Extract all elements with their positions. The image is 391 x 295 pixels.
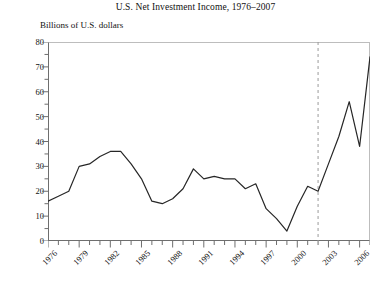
data-line bbox=[48, 57, 370, 231]
y-axis-unit-label: Billions of U.S. dollars bbox=[40, 20, 123, 30]
x-tick-label: 1988 bbox=[155, 248, 183, 276]
x-tick-label: 1991 bbox=[187, 248, 215, 276]
x-tick-label: 2000 bbox=[280, 248, 308, 276]
x-tick-label: 1979 bbox=[62, 248, 90, 276]
x-tick-label: 2006 bbox=[342, 248, 370, 276]
x-tick-label: 1976 bbox=[31, 248, 59, 276]
x-tick-label: 1997 bbox=[249, 248, 277, 276]
data-line-series bbox=[48, 42, 370, 241]
x-tick-label: 2003 bbox=[311, 248, 339, 276]
chart-title: U.S. Net Investment Income, 1976–2007 bbox=[0, 2, 391, 12]
x-tick-label: 1985 bbox=[124, 248, 152, 276]
chart-figure: U.S. Net Investment Income, 1976–2007 Bi… bbox=[0, 0, 391, 295]
x-axis-ticks bbox=[48, 241, 370, 248]
x-axis-tick-labels: 1976197919821985198819911994199720002003… bbox=[48, 248, 370, 292]
x-tick-label: 1982 bbox=[93, 248, 121, 276]
x-tick-label: 1994 bbox=[218, 248, 246, 276]
plot-area bbox=[48, 42, 370, 241]
